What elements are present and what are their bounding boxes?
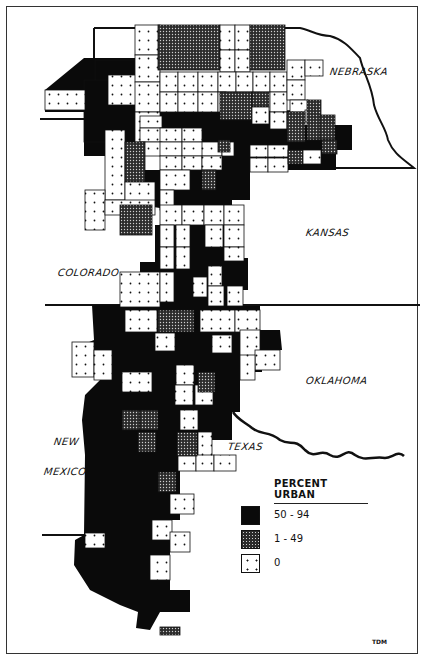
county-urban-zero (120, 272, 160, 307)
county-urban-zero (224, 205, 244, 225)
legend-item-zero: 0 (238, 554, 368, 576)
county-urban-zero (218, 72, 236, 92)
county-urban-zero (270, 92, 287, 112)
county-urban-zero (140, 116, 162, 128)
county-urban-zero (125, 310, 157, 332)
state-label-nebraska: NEBRASKA (329, 66, 389, 77)
state-label-kansas: KANSAS (305, 227, 350, 238)
county-urban-zero (45, 90, 85, 110)
map-credit: TDM (372, 638, 387, 645)
county-urban-zero (240, 355, 255, 380)
county-urban-zero (212, 335, 232, 353)
county-urban-zero (176, 247, 190, 269)
county-urban-zero (268, 158, 288, 172)
county-urban-zero (176, 225, 190, 247)
legend-swatch-medium (241, 530, 260, 549)
state-label-texas: TEXAS (227, 441, 264, 452)
county-urban-zero (135, 82, 160, 112)
state-label-colorado: COLORADO (57, 267, 120, 278)
county-urban-zero (235, 310, 260, 332)
county-urban-zero (255, 350, 280, 370)
county-urban-partial (202, 170, 216, 190)
county-urban-zero (182, 156, 202, 170)
legend-label-zero: 0 (274, 557, 280, 568)
legend-label-medium: 1 - 49 (274, 533, 303, 544)
county-urban-zero (178, 92, 198, 112)
county-urban-zero (182, 128, 202, 142)
county-urban-zero (253, 72, 270, 92)
legend-item-medium: 1 - 49 (238, 530, 368, 552)
county-urban-zero (198, 72, 218, 92)
legend-swatch-high (241, 506, 260, 525)
county-urban-partial (198, 372, 215, 392)
county-urban-zero (220, 25, 235, 50)
county-urban-partial (288, 150, 303, 164)
county-urban-zero (178, 455, 196, 471)
county-urban-partial (218, 140, 230, 152)
county-urban-partial (158, 310, 194, 332)
county-urban-partial (287, 112, 305, 142)
state-label-new: NEW (53, 436, 80, 447)
county-urban-zero (85, 190, 105, 230)
county-urban-zero (140, 128, 162, 142)
county-urban-zero (85, 533, 105, 548)
county-urban-zero (250, 158, 268, 172)
county-urban-partial (160, 627, 180, 635)
county-urban-zero (268, 145, 288, 157)
county-urban-zero (204, 205, 224, 225)
county-urban-zero (175, 385, 193, 405)
county-urban-partial (122, 410, 140, 430)
county-urban-zero (200, 310, 235, 332)
legend-title: PERCENT URBAN (274, 478, 368, 504)
county-urban-zero (182, 142, 204, 156)
county-urban-zero (303, 150, 321, 164)
county-urban-partial (158, 472, 176, 492)
county-urban-zero (250, 145, 268, 157)
county-urban-partial (220, 92, 252, 120)
county-urban-zero (270, 112, 287, 129)
county-urban-zero (170, 494, 194, 514)
county-urban-zero (105, 130, 125, 200)
county-urban-zero (176, 365, 194, 385)
county-urban-zero (170, 532, 190, 552)
county-urban-zero (235, 50, 250, 72)
county-urban-zero (72, 342, 94, 377)
county-urban-zero (214, 455, 236, 471)
county-urban-zero (236, 72, 253, 92)
county-urban-zero (178, 72, 198, 92)
state-label-oklahoma: OKLAHOMA (305, 375, 368, 386)
county-urban-zero (160, 247, 174, 269)
county-urban-zero (270, 72, 287, 92)
county-urban-zero (180, 410, 198, 430)
county-urban-partial (120, 205, 152, 235)
county-urban-partial (250, 25, 285, 70)
county-urban-partial (125, 142, 145, 182)
county-urban-zero (198, 92, 218, 112)
legend: PERCENT URBAN 50 - 94 1 - 49 0 (238, 478, 368, 576)
county-urban-partial (252, 92, 269, 107)
county-urban-partial (322, 140, 337, 154)
county-urban-partial (140, 410, 158, 430)
county-urban-zero (202, 156, 222, 170)
county-urban-partial (177, 432, 197, 456)
county-urban-zero (198, 432, 212, 456)
legend-label-high: 50 - 94 (274, 509, 309, 520)
county-urban-zero (208, 266, 222, 286)
county-urban-zero (135, 25, 160, 55)
county-urban-zero (160, 142, 182, 156)
county-urban-zero (193, 277, 207, 297)
county-urban-zero (160, 156, 182, 170)
county-urban-zero (205, 225, 223, 247)
legend-item-high: 50 - 94 (238, 506, 368, 528)
county-urban-zero (152, 520, 172, 540)
county-urban-zero (94, 350, 112, 380)
county-urban-zero (160, 92, 178, 112)
county-urban-zero (305, 60, 323, 76)
county-urban-zero (125, 182, 155, 202)
county-urban-zero (122, 372, 152, 392)
county-urban-zero (220, 50, 235, 72)
county-urban-zero (155, 333, 175, 351)
county-urban-zero (235, 25, 250, 50)
county-urban-zero (208, 286, 224, 306)
county-urban-zero (150, 555, 170, 580)
